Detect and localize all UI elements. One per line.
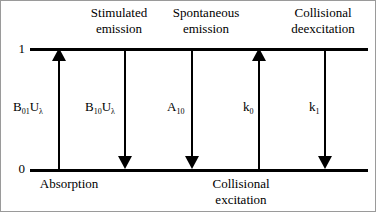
arrowhead-down-icon bbox=[318, 156, 332, 169]
caption-collisional-deexcitation-line2: deexcitation bbox=[271, 21, 375, 37]
rate-label-collisional-deexcitation: k1 bbox=[309, 99, 320, 116]
rate-symbol: B bbox=[13, 99, 22, 114]
arrow-shaft bbox=[58, 59, 60, 169]
arrowhead-down-icon bbox=[185, 156, 199, 169]
energy-level-label-upper: 1 bbox=[3, 42, 25, 55]
rate-subscript: 1 bbox=[316, 107, 320, 116]
rate-subscript: 0 bbox=[250, 107, 254, 116]
rate-symbol: B bbox=[85, 99, 94, 114]
caption-stimulated-emission-line2: emission bbox=[77, 21, 161, 37]
caption-collisional-deexcitation: Collisional deexcitation bbox=[271, 5, 375, 37]
rate-symbol: k bbox=[243, 99, 250, 114]
rate-factor-subscript: λ bbox=[111, 107, 115, 116]
caption-spontaneous-emission-line1: Spontaneous bbox=[161, 5, 251, 21]
arrow-shaft bbox=[258, 59, 260, 169]
caption-collisional-excitation: Collisional excitation bbox=[187, 176, 295, 208]
caption-stimulated-emission: Stimulated emission bbox=[77, 5, 161, 37]
rate-label-spontaneous-emission: A10 bbox=[167, 99, 184, 116]
arrow-absorption bbox=[51, 48, 67, 169]
rate-factor: U bbox=[102, 99, 111, 114]
rate-subscript: 10 bbox=[176, 107, 184, 116]
caption-collisional-deexcitation-line1: Collisional bbox=[271, 5, 375, 21]
arrow-spontaneous-emission bbox=[184, 48, 200, 169]
arrowhead-down-icon bbox=[118, 156, 132, 169]
rate-label-stimulated-emission: B10Uλ bbox=[85, 99, 115, 116]
rate-symbol: A bbox=[167, 99, 176, 114]
arrow-shaft bbox=[191, 48, 193, 158]
rate-subscript: 10 bbox=[94, 107, 102, 116]
arrow-shaft bbox=[124, 48, 126, 158]
rate-factor-subscript: λ bbox=[39, 107, 43, 116]
caption-stimulated-emission-line1: Stimulated bbox=[77, 5, 161, 21]
rate-label-absorption: B01Uλ bbox=[13, 99, 43, 116]
transition-diagram: 1 0 Stimulated emission Spontaneous emis… bbox=[0, 0, 376, 212]
energy-level-label-lower: 0 bbox=[3, 162, 25, 175]
caption-absorption: Absorption bbox=[23, 176, 115, 192]
arrow-stimulated-emission bbox=[117, 48, 133, 169]
energy-level-lower-line bbox=[30, 169, 368, 172]
caption-spontaneous-emission: Spontaneous emission bbox=[161, 5, 251, 37]
caption-spontaneous-emission-line2: emission bbox=[161, 21, 251, 37]
rate-label-collisional-excitation: k0 bbox=[243, 99, 254, 116]
rate-factor: U bbox=[30, 99, 39, 114]
caption-collisional-excitation-line2: excitation bbox=[187, 192, 295, 208]
arrow-shaft bbox=[324, 48, 326, 158]
caption-collisional-excitation-line1: Collisional bbox=[187, 176, 295, 192]
rate-subscript: 01 bbox=[22, 107, 30, 116]
rate-symbol: k bbox=[309, 99, 316, 114]
